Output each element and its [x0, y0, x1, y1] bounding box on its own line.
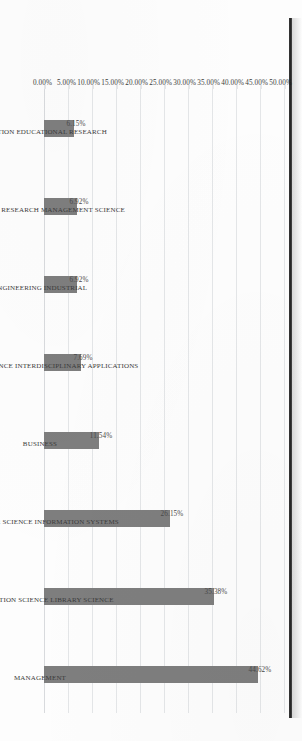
- bar-value-label: 6.15%: [66, 120, 85, 128]
- category-label: MANAGEMENT: [14, 674, 66, 682]
- category-slot: COMPUTER SCIENCE INTERDISCIPLINARY APPLI…: [8, 323, 44, 401]
- category-label: OPERATIONS RESEARCH MANAGEMENT SCIENCE: [0, 206, 125, 214]
- bar-value-label: 26.15%: [160, 510, 183, 518]
- axis-tick-label: 40.00%: [221, 79, 244, 87]
- rotated-chart-container: 0.00%5.00%10.00%15.00%20.00%25.00%30.00%…: [8, 21, 294, 721]
- axis-tick-label: 25.00%: [149, 79, 172, 87]
- axis-tick-label: 35.00%: [197, 79, 220, 87]
- category-axis: EDUCATION EDUCATIONAL RESEARCHOPERATIONS…: [8, 89, 44, 713]
- axis-tick-label: 0.00%: [33, 79, 52, 87]
- category-label: COMPUTER SCIENCE INTERDISCIPLINARY APPLI…: [0, 362, 138, 370]
- axis-tick-label: 45.00%: [245, 79, 268, 87]
- axis-tick-label: 15.00%: [101, 79, 124, 87]
- bar-slot: 44.62%: [44, 635, 284, 713]
- category-label: EDUCATION EDUCATIONAL RESEARCH: [0, 128, 107, 136]
- axis-tick-label: 20.00%: [125, 79, 148, 87]
- category-label: ENGINEERING INDUSTRIAL: [0, 284, 87, 292]
- bar-value-label: 11.54%: [90, 432, 113, 440]
- bar-series: 6.15%6.92%6.92%7.69%11.54%26.15%35.38%44…: [44, 89, 284, 713]
- axis-tick-label: 5.00%: [57, 79, 76, 87]
- scanned-page: 0.00%5.00%10.00%15.00%20.00%25.00%30.00%…: [0, 0, 302, 741]
- category-slot: COMPUTER SCIENCE INFORMATION SYSTEMS: [8, 479, 44, 557]
- category-label: INFORMATION SCIENCE LIBRARY SCIENCE: [0, 596, 114, 604]
- category-slot: BUSINESS: [8, 401, 44, 479]
- bar-value-label: 6.92%: [70, 276, 89, 284]
- bar-chart: 0.00%5.00%10.00%15.00%20.00%25.00%30.00%…: [8, 21, 294, 721]
- bar-value-label: 35.38%: [204, 588, 227, 596]
- category-slot: OPERATIONS RESEARCH MANAGEMENT SCIENCE: [8, 167, 44, 245]
- value-axis: 0.00%5.00%10.00%15.00%20.00%25.00%30.00%…: [44, 21, 284, 89]
- category-slot: ENGINEERING INDUSTRIAL: [8, 245, 44, 323]
- category-slot: EDUCATION EDUCATIONAL RESEARCH: [8, 89, 44, 167]
- category-slot: MANAGEMENT: [8, 635, 44, 713]
- bar-value-label: 44.62%: [249, 666, 272, 674]
- plot-area: 6.15%6.92%6.92%7.69%11.54%26.15%35.38%44…: [44, 89, 284, 713]
- bar[interactable]: 44.62%: [44, 665, 258, 682]
- bar-value-label: 7.69%: [73, 354, 92, 362]
- bar-value-label: 6.92%: [70, 198, 89, 206]
- bar-slot: 11.54%: [44, 401, 284, 479]
- page-edge-gradient: [292, 18, 302, 718]
- axis-tick-label: 10.00%: [77, 79, 100, 87]
- category-slot: INFORMATION SCIENCE LIBRARY SCIENCE: [8, 557, 44, 635]
- category-label: COMPUTER SCIENCE INFORMATION SYSTEMS: [0, 518, 119, 526]
- axis-tick-label: 30.00%: [173, 79, 196, 87]
- category-label: BUSINESS: [23, 440, 57, 448]
- gridline: [284, 89, 285, 713]
